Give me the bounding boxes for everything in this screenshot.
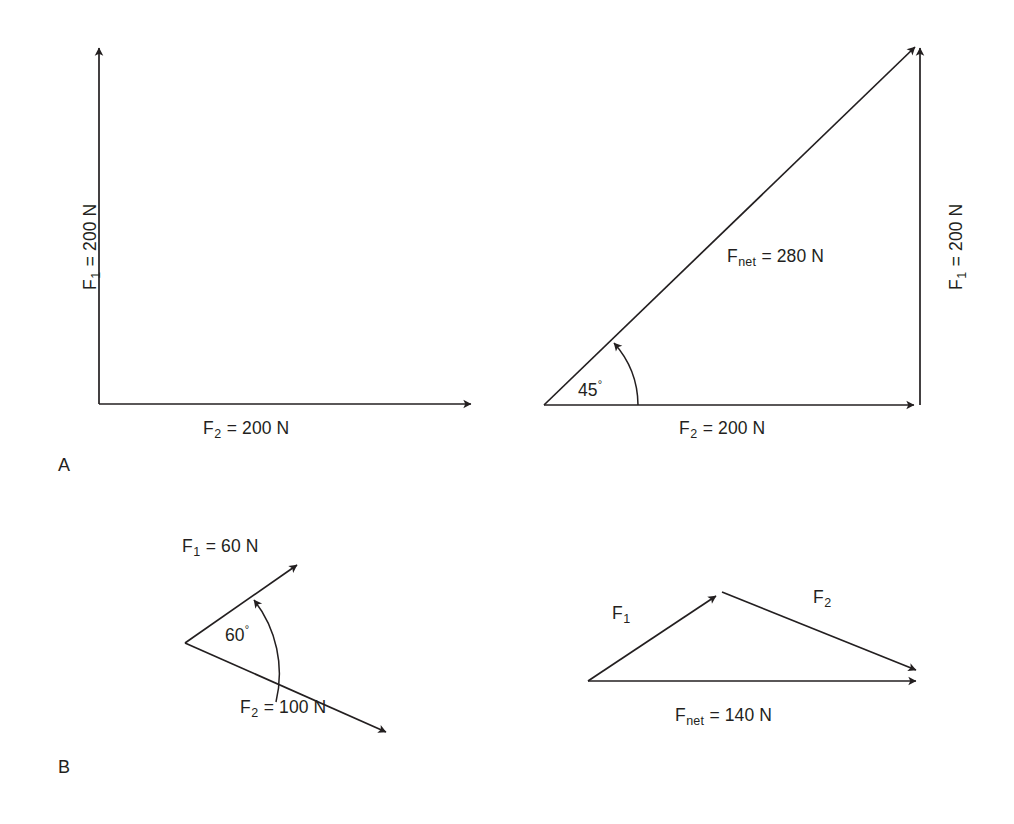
- label-f1-a-right: F1 = 200 N: [948, 204, 966, 290]
- vector-f1-arrow-b-right: [588, 596, 716, 681]
- angle-arc-60: [254, 600, 279, 702]
- label-f2-b-left: F2 = 100 N: [240, 699, 326, 717]
- label-f1-a-left: F1 = 200 N: [82, 204, 100, 290]
- panel-label-a: A: [58, 455, 70, 476]
- angle-arc-45: [614, 343, 638, 405]
- vector-f2-arrow-b-left: [185, 643, 386, 732]
- panel-label-b: B: [58, 757, 70, 778]
- panel-a-left-diagram: [99, 48, 471, 404]
- panel-b-right-diagram: [588, 592, 916, 681]
- label-fnet-b-right: Fnet = 140 N: [675, 707, 772, 725]
- label-f1-b-right: F1: [612, 605, 631, 623]
- vector-drawing-layer: [0, 0, 1014, 824]
- label-f2-b-right: F2: [813, 589, 832, 607]
- vector-fnet-arrow-a-right: [544, 47, 915, 405]
- label-angle-45: 45°: [578, 380, 602, 399]
- label-f2-a-right: F2 = 200 N: [679, 420, 765, 438]
- panel-a-right-diagram: [544, 47, 920, 405]
- label-fnet-a-right: Fnet = 280 N: [727, 248, 824, 266]
- force-vector-figure: F1 = 200 N F2 = 200 N F1 = 200 N F2 = 20…: [0, 0, 1014, 824]
- label-f1-b-left: F1 = 60 N: [182, 538, 258, 556]
- label-f2-a-left: F2 = 200 N: [203, 420, 289, 438]
- label-angle-60: 60°: [225, 625, 249, 644]
